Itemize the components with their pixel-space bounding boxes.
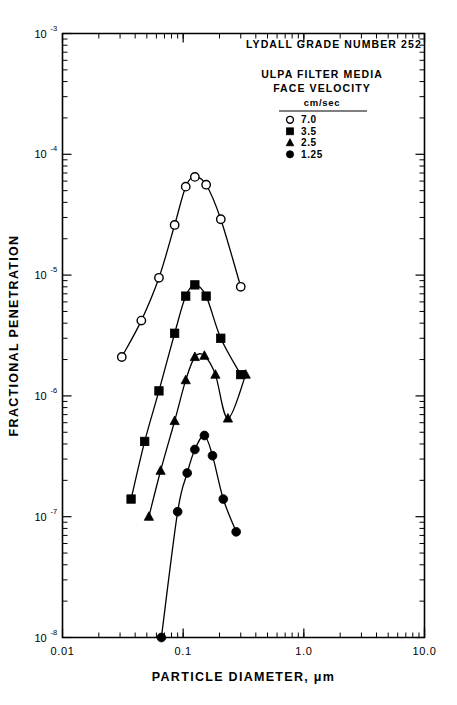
y-tick-labels: 10-310-410-510-610-710-8 (34, 24, 57, 644)
svg-text:-6: -6 (51, 386, 58, 395)
svg-text:10: 10 (34, 511, 46, 523)
legend-entry[interactable]: 3.5 (287, 126, 317, 137)
x-tick-label: 10.0 (413, 645, 437, 657)
marker-filled-square (191, 281, 199, 289)
legend-header-line2: FACE VELOCITY (273, 82, 371, 94)
y-tick-label: 10-5 (34, 265, 57, 281)
marker-filled-square (155, 387, 163, 395)
y-tick-label: 10-6 (34, 386, 57, 402)
legend-entry[interactable]: 1.25 (286, 149, 322, 160)
svg-text:-7: -7 (51, 507, 58, 516)
y-tick-label: 10-3 (34, 24, 57, 40)
marker-filled-circle (286, 151, 293, 158)
marker-filled-triangle (211, 370, 220, 379)
series-line (122, 177, 241, 357)
svg-text:-8: -8 (51, 628, 58, 637)
legend-entry-label: 3.5 (301, 126, 317, 137)
y-axis-title: FRACTIONAL PENETRATION (7, 235, 21, 437)
x-tick-label: 1.0 (295, 645, 312, 657)
series-line (131, 285, 241, 499)
marker-open-circle (155, 274, 163, 282)
marker-filled-triangle (200, 351, 209, 360)
marker-filled-triangle (286, 139, 294, 146)
annotation-block: LYDALL GRADE NUMBER 252ULPA FILTER MEDIA… (246, 38, 422, 160)
marker-filled-circle (200, 431, 209, 440)
marker-filled-circle (190, 445, 199, 454)
data-series (118, 173, 245, 361)
marker-filled-triangle (144, 512, 153, 521)
y-tick-label: 10-4 (34, 144, 57, 160)
figure-container: 0.010.11.010.010-310-410-510-610-710-8PA… (0, 0, 457, 705)
x-tick-label: 0.1 (175, 645, 192, 657)
svg-text:-3: -3 (51, 24, 58, 33)
plot-frame (63, 34, 425, 638)
marker-filled-circle (157, 633, 166, 642)
marker-open-circle (202, 181, 210, 189)
marker-filled-square (170, 329, 178, 337)
svg-text:10: 10 (34, 28, 46, 40)
marker-open-circle (170, 221, 178, 229)
legend-entry[interactable]: 2.5 (286, 137, 316, 148)
marker-open-circle (191, 173, 199, 181)
x-axis-title: PARTICLE DIAMETER, μm (152, 670, 335, 684)
marker-filled-square (127, 495, 135, 503)
y-axis-ticks (63, 34, 425, 638)
marker-filled-circle (183, 469, 192, 478)
marker-filled-square (182, 292, 190, 300)
marker-open-circle (287, 116, 294, 123)
marker-filled-square (141, 437, 149, 445)
marker-filled-square (202, 292, 210, 300)
marker-filled-circle (219, 495, 228, 504)
marker-open-circle (182, 182, 190, 190)
chart-title: LYDALL GRADE NUMBER 252 (246, 38, 422, 50)
series-line (161, 435, 236, 637)
legend-entry[interactable]: 7.0 (287, 114, 317, 125)
marker-filled-triangle (170, 416, 179, 425)
svg-text:10: 10 (34, 148, 46, 160)
svg-text:10: 10 (34, 269, 46, 281)
marker-filled-circle (208, 451, 217, 460)
svg-text:-4: -4 (51, 144, 58, 153)
svg-text:-5: -5 (51, 265, 58, 274)
marker-open-circle (237, 283, 245, 291)
legend-units-label: cm/sec (304, 97, 340, 108)
marker-open-circle (118, 353, 126, 361)
marker-open-circle (217, 215, 225, 223)
marker-filled-triangle (190, 352, 199, 361)
data-series (157, 431, 241, 642)
x-tick-label: 0.01 (51, 645, 75, 657)
legend-header-line1: ULPA FILTER MEDIA (261, 68, 383, 80)
svg-text:10: 10 (34, 632, 46, 644)
svg-text:10: 10 (34, 390, 46, 402)
marker-filled-square (287, 128, 294, 135)
marker-filled-square (217, 334, 225, 342)
x-axis-ticks (63, 34, 425, 638)
y-tick-label: 10-7 (34, 507, 57, 523)
marker-filled-circle (173, 507, 182, 516)
marker-filled-triangle (156, 466, 165, 475)
legend-entry-label: 7.0 (301, 114, 317, 125)
series-line (149, 354, 246, 517)
marker-filled-circle (232, 527, 241, 536)
marker-open-circle (137, 316, 145, 324)
legend-entry-label: 1.25 (301, 149, 323, 160)
data-series (144, 351, 250, 521)
data-series-group (118, 173, 251, 642)
y-tick-label: 10-8 (34, 628, 57, 644)
x-tick-labels: 0.010.11.010.0 (51, 645, 437, 657)
legend-entry-label: 2.5 (301, 137, 317, 148)
marker-filled-triangle (181, 375, 190, 384)
